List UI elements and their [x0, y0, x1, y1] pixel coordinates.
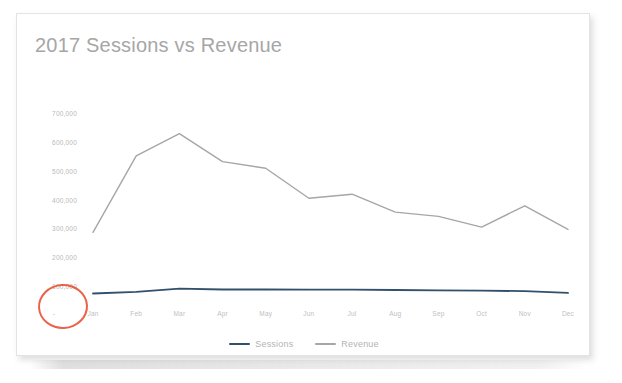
revenue-line[interactable]: [93, 134, 568, 233]
scan-artifact-band: [30, 360, 585, 369]
legend-swatch-sessions-icon: [229, 343, 250, 345]
legend-label: Sessions: [255, 339, 293, 349]
legend-entry-revenue[interactable]: Revenue: [315, 339, 378, 349]
chart-legend: SessionsRevenue: [17, 339, 591, 349]
chart-card[interactable]: 2017 Sessions vs Revenue 700,000600,0005…: [16, 13, 590, 356]
slide-background: 2017 Sessions vs Revenue 700,000600,0005…: [0, 0, 622, 383]
legend-label: Revenue: [341, 339, 378, 349]
legend-entry-sessions[interactable]: Sessions: [229, 339, 293, 349]
series-lines-svg: [17, 14, 591, 357]
sessions-line[interactable]: [93, 289, 568, 294]
plot-area: 700,000600,000500,000400,000300,000200,0…: [17, 14, 591, 357]
legend-swatch-revenue-icon: [315, 343, 336, 345]
